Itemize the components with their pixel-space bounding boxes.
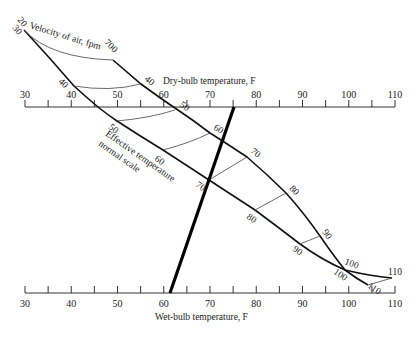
connector-90 <box>300 236 320 244</box>
dry-bulb-tick-label: 80 <box>251 89 261 100</box>
upper-label-70: 70 <box>249 146 263 160</box>
lower-label-110: 110 <box>366 280 383 296</box>
lower-label-100: 100 <box>332 266 350 283</box>
dry-bulb-tick-label: 40 <box>66 89 76 100</box>
wet-bulb-tick-label: 80 <box>251 298 261 309</box>
wet-bulb-axis: 30405060708090100110 Wet-bulb temperatur… <box>20 286 402 322</box>
wet-bulb-axis-title: Wet-bulb temperature, F <box>155 312 248 322</box>
wet-bulb-tick-label: 60 <box>159 298 169 309</box>
dry-bulb-tick-label: 50 <box>113 89 123 100</box>
upper-label-110: 110 <box>388 267 402 277</box>
connector-80 <box>255 193 286 210</box>
velocity-label-700: 700 <box>103 37 120 54</box>
velocity-curve-700 <box>113 60 368 285</box>
connector-60 <box>163 133 210 150</box>
wet-bulb-tick-label: 90 <box>298 298 308 309</box>
connector-50 <box>117 110 175 121</box>
wet-bulb-tick-label: 30 <box>20 298 30 309</box>
dry-bulb-tick-label: 110 <box>388 89 403 100</box>
dry-bulb-axis-title: Dry-bulb temperature, F <box>163 76 256 86</box>
upper-label-40: 40 <box>143 74 157 88</box>
wet-bulb-tick-label: 40 <box>66 298 76 309</box>
upper-label-100: 100 <box>343 256 360 270</box>
velocity-curve-20-30 <box>24 30 392 278</box>
dry-bulb-tick-label: 70 <box>205 89 215 100</box>
effective-temperature-nomogram: 30405060708090100110 Dry-bulb temperatur… <box>0 0 420 337</box>
connector-40 <box>74 84 141 89</box>
upper-label-80: 80 <box>288 183 302 197</box>
dry-bulb-tick-label: 30 <box>20 89 30 100</box>
dry-bulb-axis: 30405060708090100110 Dry-bulb temperatur… <box>20 76 402 107</box>
wet-bulb-tick-label: 100 <box>341 298 356 309</box>
dry-bulb-tick-label: 100 <box>341 89 356 100</box>
lower-label-80: 80 <box>245 211 259 225</box>
example-isopleth-line <box>170 107 234 293</box>
dry-bulb-tick-label: 90 <box>298 89 308 100</box>
wet-bulb-tick-label: 110 <box>388 298 403 309</box>
wet-bulb-tick-label: 50 <box>113 298 123 309</box>
wet-bulb-tick-label: 70 <box>205 298 215 309</box>
